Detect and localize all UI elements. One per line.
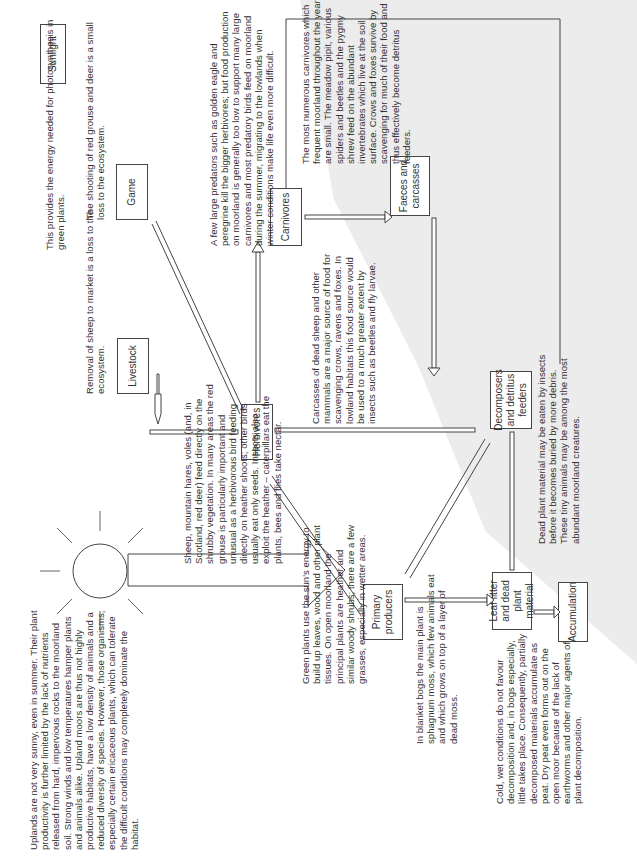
note-dead-plant: Dead plant material may be eaten by inse… (536, 344, 581, 544)
arrow-leaf-litter-to-decomposers (510, 432, 514, 570)
note-sunlight: This provides the energy needed for phot… (44, 0, 66, 250)
arrow-producers-to-decomposers (405, 439, 485, 574)
note-small-carnivores: The most numerous carnivores which frequ… (300, 0, 412, 164)
arrow-herbivores-to-carnivores (256, 252, 260, 402)
arrow-herbivores-to-livestock (155, 374, 161, 424)
arrow-faeces-to-decomposers (432, 218, 436, 368)
note-game: The shooting of red grouse and deer is a… (84, 20, 106, 220)
note-cold-wet: Cold, wet conditions do not favour decom… (494, 634, 584, 804)
note-blanket-bogs: In blanket bogs the main plant is sphagn… (414, 574, 459, 744)
note-green-plants: Green plants use the sun's energy to bui… (300, 524, 367, 684)
note-herbivores: Sheep, mountain hares, voles (and, in Sc… (182, 384, 283, 564)
note-carcasses: Carcasses of dead sheep and other mammal… (310, 244, 377, 424)
moorland-ecosystem-diagram: Sunlight Primary producers Herbivores Li… (0, 0, 637, 864)
arrow-leaf-litter-to-accumulation (534, 610, 554, 614)
arrow-herbivores-to-decomposers (275, 428, 475, 432)
note-livestock: Removal of sheep to market is a loss to … (84, 194, 106, 394)
arrow-carnivores-to-faeces (305, 215, 385, 219)
note-uplands: Uplands are not very sunny, even in summ… (28, 610, 140, 850)
note-carnivores: A few large predators such as golden eag… (208, 6, 275, 246)
